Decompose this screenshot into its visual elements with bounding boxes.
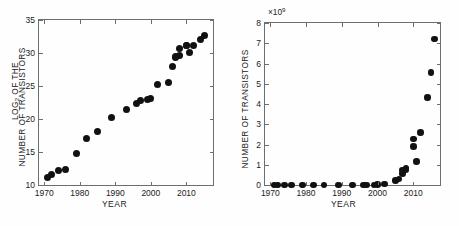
x-tick-label: 2010 [177, 189, 196, 198]
x-tick [270, 182, 271, 186]
y-tick [39, 20, 43, 21]
y-tick-mirror [210, 86, 214, 87]
data-point [169, 63, 176, 70]
x-tick-label: 1990 [106, 189, 125, 198]
y-tick-mirror [437, 145, 441, 146]
data-point [417, 129, 424, 136]
x-tick [306, 182, 307, 186]
y-tick-label: 4 [256, 100, 261, 109]
data-point [108, 114, 115, 121]
data-point [176, 45, 183, 52]
data-point [55, 167, 62, 174]
x-tick-mirror [306, 23, 307, 27]
y-tick-mirror [437, 64, 441, 65]
y-tick [265, 165, 269, 166]
data-point [165, 79, 172, 86]
y-tick-mirror [437, 185, 441, 186]
x-tick-mirror [270, 23, 271, 27]
x-tick [342, 182, 343, 186]
data-point [424, 94, 431, 101]
x-tick-label: 1980 [297, 189, 316, 198]
y-tick [265, 64, 269, 65]
y-tick-label: 25 [26, 82, 35, 91]
data-point [321, 182, 328, 189]
y-tick-mirror [437, 165, 441, 166]
x-tick-label: 1980 [70, 189, 89, 198]
data-point [413, 158, 420, 165]
offset-mantissa: ×10 [268, 7, 282, 17]
figure-transistor-counts: LOG2 OF THE NUMBER OF TRANSISTORS 101520… [0, 0, 459, 226]
y-tick-label: 3 [256, 120, 261, 129]
data-point [428, 69, 435, 76]
x-axis-title: YEAR [102, 199, 127, 209]
data-point [201, 32, 208, 39]
y-tick-label: 6 [256, 59, 261, 68]
data-point [147, 95, 154, 102]
y-tick [39, 86, 43, 87]
scatter-layer-linear-scale [265, 23, 440, 185]
data-point [62, 166, 69, 173]
offset-exponent: 9 [282, 6, 285, 13]
y-tick-label: 15 [26, 148, 35, 157]
x-tick [80, 182, 81, 186]
y-tick-label: 10 [26, 181, 35, 190]
data-point [281, 182, 288, 189]
y-tick-mirror [210, 152, 214, 153]
x-tick [186, 182, 187, 186]
y-tick-mirror [437, 84, 441, 85]
data-point [48, 171, 55, 178]
x-tick-label: 2000 [141, 189, 160, 198]
data-point [431, 36, 438, 43]
x-tick-label: 2010 [404, 189, 423, 198]
x-tick-mirror [186, 20, 187, 24]
data-point [183, 42, 190, 49]
x-tick-mirror [378, 23, 379, 27]
plot-area-log-scale: 10152025303519701980199020002010 [38, 19, 214, 186]
y-axis-title: NUMBER OF TRANSISTORS [240, 49, 250, 169]
data-point [137, 97, 144, 104]
data-point [176, 52, 183, 59]
y-axis-offset-multiplier: ×109 [268, 6, 286, 17]
y-tick [39, 185, 43, 186]
y-tick [265, 124, 269, 125]
y-tick-mirror [437, 104, 441, 105]
y-tick-mirror [210, 20, 214, 21]
y-tick-label: 35 [26, 16, 35, 25]
y-tick-label: 8 [256, 19, 261, 28]
plot-area-linear-scale: 01234567819701980199020002010 [264, 22, 441, 186]
x-tick-mirror [44, 20, 45, 24]
data-point [73, 150, 80, 157]
y-tick [265, 84, 269, 85]
x-tick-mirror [115, 20, 116, 24]
y-tick-label: 5 [256, 80, 261, 89]
y-tick-mirror [437, 43, 441, 44]
x-tick-label: 1970 [35, 189, 54, 198]
y-tick-label: 20 [26, 115, 35, 124]
y-tick [265, 23, 269, 24]
y-tick-label: 2 [256, 140, 261, 149]
y-tick-mirror [437, 124, 441, 125]
data-point [94, 128, 101, 135]
y-tick-mirror [210, 53, 214, 54]
x-tick-label: 2000 [368, 189, 387, 198]
x-tick-label: 1990 [332, 189, 351, 198]
x-tick-mirror [342, 23, 343, 27]
y-tick-mirror [210, 185, 214, 186]
data-point [154, 81, 161, 88]
y-tick-label: 30 [26, 49, 35, 58]
data-point [410, 136, 417, 143]
data-point [190, 42, 197, 49]
data-point [123, 106, 130, 113]
y-tick [265, 104, 269, 105]
x-tick-mirror [151, 20, 152, 24]
y-tick [265, 185, 269, 186]
data-point [186, 49, 193, 56]
data-point [288, 182, 295, 189]
x-tick [378, 182, 379, 186]
x-tick-mirror [80, 20, 81, 24]
y-tick [39, 119, 43, 120]
y-tick-label: 7 [256, 39, 261, 48]
scatter-layer-log-scale [39, 20, 213, 185]
data-point [83, 135, 90, 142]
x-tick-mirror [413, 23, 414, 27]
